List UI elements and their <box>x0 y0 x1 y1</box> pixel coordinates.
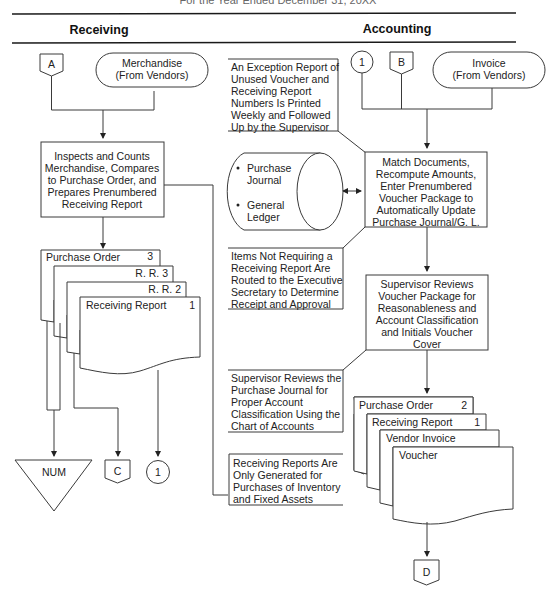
header-top-rule <box>12 13 516 14</box>
annotation-supervisor-reviews-pj: Supervisor Reviews the Purchase Journal … <box>228 350 366 432</box>
svg-text:Receiving Report: Receiving Report <box>86 299 167 311</box>
svg-text:Purchase Journal for: Purchase Journal for <box>231 384 328 396</box>
svg-text:(From Vendors): (From Vendors) <box>116 69 189 81</box>
header-bottom-rule <box>12 42 516 43</box>
svg-text:2: 2 <box>461 399 467 411</box>
svg-text:Purchase Order: Purchase Order <box>359 399 434 411</box>
svg-text:A: A <box>48 58 55 70</box>
svg-text:Receipt and Approval: Receipt and Approval <box>231 298 331 310</box>
svg-text:Supervisor Reviews: Supervisor Reviews <box>381 278 474 290</box>
process-supervisor-reviews-voucher: Supervisor Reviews Voucher Package for R… <box>366 275 488 350</box>
svg-text:Journal: Journal <box>247 174 281 186</box>
annotation-receiving-reports-only: Receiving Reports Are Only Generated for… <box>229 454 343 505</box>
svg-text:Merchandise: Merchandise <box>122 57 182 69</box>
svg-text:Chart of Accounts: Chart of Accounts <box>231 420 314 432</box>
annotation-items-not-requiring: Items Not Requiring a Receiving Report A… <box>228 227 365 310</box>
column-header-receiving: Receiving <box>69 23 128 37</box>
connector-1-receiving: 1 <box>147 461 170 484</box>
svg-text:D: D <box>423 566 431 578</box>
svg-text:Voucher: Voucher <box>399 449 438 461</box>
svg-text:General: General <box>247 199 284 211</box>
svg-text:R. R. 3: R. R. 3 <box>135 267 168 279</box>
document-receiving-report-1: Receiving Report 1 <box>80 297 200 374</box>
chart-title: For the Year Ended December 31, 20XX <box>180 0 378 6</box>
column-header-accounting: Accounting <box>363 22 432 36</box>
svg-text:1: 1 <box>189 299 195 311</box>
process-match-documents: Match Documents, Recompute Amounts, Ente… <box>365 152 487 228</box>
svg-text:Only Generated for: Only Generated for <box>233 469 323 481</box>
svg-text:1: 1 <box>155 466 161 478</box>
flowchart-canvas: For the Year Ended December 31, 20XX Rec… <box>0 0 556 592</box>
svg-text:Reasonableness and: Reasonableness and <box>378 302 477 314</box>
connector-b: B <box>390 52 413 74</box>
svg-text:Account Classification: Account Classification <box>376 314 479 326</box>
svg-text:R. R. 2: R. R. 2 <box>148 283 181 295</box>
svg-text:Numbers Is Printed: Numbers Is Printed <box>231 97 321 109</box>
svg-text:Unused Voucher and: Unused Voucher and <box>231 73 329 85</box>
svg-text:Up by the Supervisor: Up by the Supervisor <box>231 121 330 133</box>
svg-text:Enter Prenumbered: Enter Prenumbered <box>380 180 472 192</box>
svg-text:Purchases of Inventory: Purchases of Inventory <box>233 481 341 493</box>
svg-text:Invoice: Invoice <box>472 57 505 69</box>
svg-text:Automatically Update: Automatically Update <box>376 204 475 216</box>
svg-text:Vendor Invoice: Vendor Invoice <box>386 432 456 444</box>
svg-text:Prepares Prenumbered: Prepares Prenumbered <box>47 186 156 198</box>
svg-text:Supervisor Reviews the: Supervisor Reviews the <box>231 372 341 384</box>
svg-text:Receiving Report: Receiving Report <box>372 416 453 428</box>
connector-d: D <box>414 560 439 585</box>
svg-text:Match Documents,: Match Documents, <box>382 156 470 168</box>
terminal-invoice: Invoice (From Vendors) <box>433 52 545 88</box>
svg-text:Voucher Package to: Voucher Package to <box>379 192 473 204</box>
svg-text:Proper Account: Proper Account <box>231 396 303 408</box>
svg-text:Purchase Journal/G. L.: Purchase Journal/G. L. <box>372 216 479 228</box>
connector-c: C <box>105 460 130 483</box>
svg-text:Receiving Reports Are: Receiving Reports Are <box>233 457 338 469</box>
svg-text:Routed to the Executive: Routed to the Executive <box>231 274 343 286</box>
svg-text:Items Not Requiring a: Items Not Requiring a <box>231 250 333 262</box>
svg-text:NUM: NUM <box>42 466 66 478</box>
svg-text:Classification Using the: Classification Using the <box>231 408 340 420</box>
connector-a: A <box>40 54 63 76</box>
svg-text:An Exception Report of: An Exception Report of <box>231 61 339 73</box>
svg-text:Receiving Report: Receiving Report <box>231 85 312 97</box>
svg-text:and Fixed Assets: and Fixed Assets <box>233 493 313 505</box>
svg-text:B: B <box>398 56 405 68</box>
svg-text:Receiving Report Are: Receiving Report Are <box>231 262 330 274</box>
svg-text:Purchase Order: Purchase Order <box>46 251 121 263</box>
document-voucher: Voucher <box>393 447 513 524</box>
svg-text:to Purchase Order, and: to Purchase Order, and <box>48 174 157 186</box>
file-num-triangle: NUM <box>15 460 92 511</box>
svg-text:Secretary to Determine: Secretary to Determine <box>231 286 339 298</box>
svg-text:Receiving Report: Receiving Report <box>62 198 143 210</box>
svg-text:Merchandise, Compares: Merchandise, Compares <box>45 162 159 174</box>
svg-text:Purchase: Purchase <box>247 162 292 174</box>
svg-text:1: 1 <box>474 416 480 428</box>
svg-text:3: 3 <box>147 250 153 262</box>
svg-text:Inspects and Counts: Inspects and Counts <box>54 150 150 162</box>
svg-text:Weekly and Followed: Weekly and Followed <box>231 109 331 121</box>
svg-text:Recompute Amounts,: Recompute Amounts, <box>376 168 476 180</box>
disk-storage-journal-ledger: Purchase Journal General Ledger <box>227 153 343 230</box>
process-inspect-counts: Inspects and Counts Merchandise, Compare… <box>41 142 164 217</box>
annotation-exception-report: An Exception Report of Unused Voucher an… <box>228 59 366 153</box>
terminal-merchandise: Merchandise (From Vendors) <box>96 53 208 87</box>
svg-text:Ledger: Ledger <box>247 211 280 223</box>
svg-text:1: 1 <box>359 56 365 68</box>
svg-text:C: C <box>114 465 122 477</box>
svg-text:(From Vendors): (From Vendors) <box>453 69 526 81</box>
svg-text:and Initials Voucher: and Initials Voucher <box>381 326 473 338</box>
svg-text:Cover: Cover <box>413 338 442 350</box>
connector-1-accounting: 1 <box>351 51 373 73</box>
svg-text:Voucher Package for: Voucher Package for <box>378 290 476 302</box>
